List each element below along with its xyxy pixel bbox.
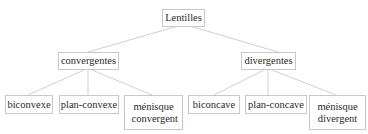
node-label: ménisque convergent (132, 101, 176, 125)
node-plan-concave: plan-concave (245, 95, 307, 114)
edge-root-convergentes (88, 26, 178, 52)
node-label: divergentes (244, 55, 292, 67)
node-label: biconvexe (7, 99, 50, 111)
node-plan-convexe: plan-convexe (59, 95, 119, 114)
node-menisque-divergent: ménisque divergent (309, 95, 366, 130)
node-label: plan-convexe (61, 99, 118, 111)
edge-convergentes-biconvexe (28, 70, 84, 95)
node-label: convergentes (61, 55, 116, 67)
node-convergentes: convergentes (58, 52, 119, 70)
edge-divergentes-biconcave (214, 70, 264, 95)
edge-divergentes-menisque (272, 70, 336, 95)
node-menisque-convergent: ménisque convergent (124, 95, 183, 130)
node-label: ménisque divergent (316, 101, 360, 125)
node-biconvexe: biconvexe (5, 95, 53, 114)
edge-root-divergentes (190, 26, 278, 52)
node-label: plan-concave (248, 99, 304, 111)
node-label: Lentilles (165, 12, 202, 24)
node-divergentes: divergentes (241, 52, 296, 70)
node-biconcave: biconcave (188, 95, 240, 114)
node-label: biconcave (193, 99, 236, 111)
edge-convergentes-menisque (92, 70, 152, 95)
node-lentilles: Lentilles (162, 9, 205, 27)
